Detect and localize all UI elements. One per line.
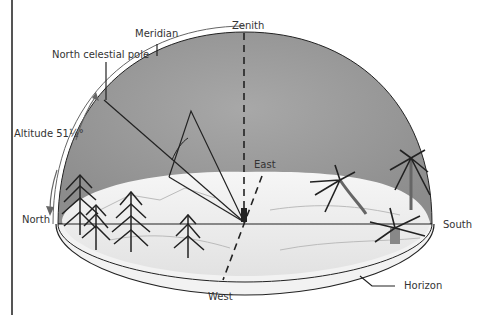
label-horizon: Horizon [404,280,442,291]
label-south: South [443,219,472,230]
label-meridian: Meridian [135,28,178,39]
label-east: East [254,159,276,170]
label-north-celestial-pole: North celestial pole [52,49,149,60]
label-north: North [22,214,50,225]
observer-figure [241,208,247,222]
label-altitude: Altitude 51½° [14,128,84,139]
label-zenith: Zenith [232,20,264,31]
label-west: West [208,291,233,302]
celestial-sphere-diagram: Zenith Meridian North celestial pole Alt… [0,0,485,315]
